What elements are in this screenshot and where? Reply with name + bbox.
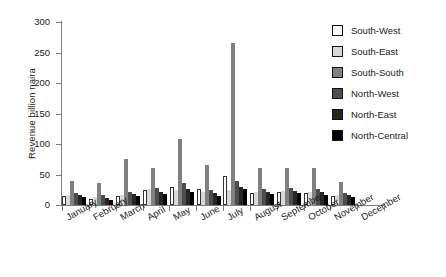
legend-label: North-West: [351, 88, 399, 99]
legend-swatch-icon: [332, 109, 343, 120]
y-tick-label: 100: [10, 139, 50, 148]
legend-swatch-icon: [332, 67, 343, 78]
legend-swatch-icon: [332, 130, 343, 141]
bar-group: [170, 22, 194, 205]
bar-group: [250, 22, 274, 205]
x-tick: [169, 206, 170, 211]
y-tick-label: 300: [10, 17, 50, 26]
y-tick: [56, 114, 61, 115]
bar-group: [62, 22, 86, 205]
x-tick: [250, 206, 251, 211]
bar: [243, 189, 247, 205]
bar-group: [223, 22, 247, 205]
legend-item: North-East: [332, 104, 446, 125]
legend-swatch-icon: [332, 46, 343, 57]
bar-group: [116, 22, 140, 205]
y-tick-label: 150: [10, 109, 50, 118]
x-tick: [223, 206, 224, 211]
x-tick-label: May: [171, 204, 192, 223]
y-tick: [56, 175, 61, 176]
bar-group: [197, 22, 221, 205]
bar: [217, 196, 221, 205]
chart-legend: South-WestSouth-EastSouth-SouthNorth-Wes…: [332, 20, 446, 146]
legend-label: North-East: [351, 109, 396, 120]
legend-label: South-West: [351, 25, 400, 36]
bar-group: [304, 22, 328, 205]
legend-item: North-West: [332, 83, 446, 104]
y-tick: [56, 83, 61, 84]
legend-label: South-South: [351, 67, 404, 78]
x-tick: [62, 206, 63, 211]
legend-item: South-West: [332, 20, 446, 41]
legend-item: South-South: [332, 62, 446, 83]
bar: [190, 192, 194, 205]
x-tick-label: April: [145, 203, 167, 222]
bar-group: [143, 22, 167, 205]
x-tick: [196, 206, 197, 211]
y-tick: [56, 53, 61, 54]
legend-item: South-East: [332, 41, 446, 62]
legend-swatch-icon: [332, 88, 343, 99]
bar-chart: Revenue billion naira 050100150200250300…: [0, 0, 446, 277]
y-tick-label: 250: [10, 48, 50, 57]
legend-item: North-Central: [332, 125, 446, 146]
legend-swatch-icon: [332, 25, 343, 36]
bar: [163, 194, 167, 205]
bar-group: [89, 22, 113, 205]
y-tick: [56, 22, 61, 23]
y-tick: [56, 144, 61, 145]
legend-label: South-East: [351, 46, 398, 57]
y-tick-label: 0: [10, 200, 50, 209]
bar-group: [277, 22, 301, 205]
x-tick-label: July: [225, 205, 245, 223]
y-tick-label: 50: [10, 170, 50, 179]
legend-label: North-Central: [351, 130, 408, 141]
y-tick: [56, 205, 61, 206]
y-tick-label: 200: [10, 78, 50, 87]
